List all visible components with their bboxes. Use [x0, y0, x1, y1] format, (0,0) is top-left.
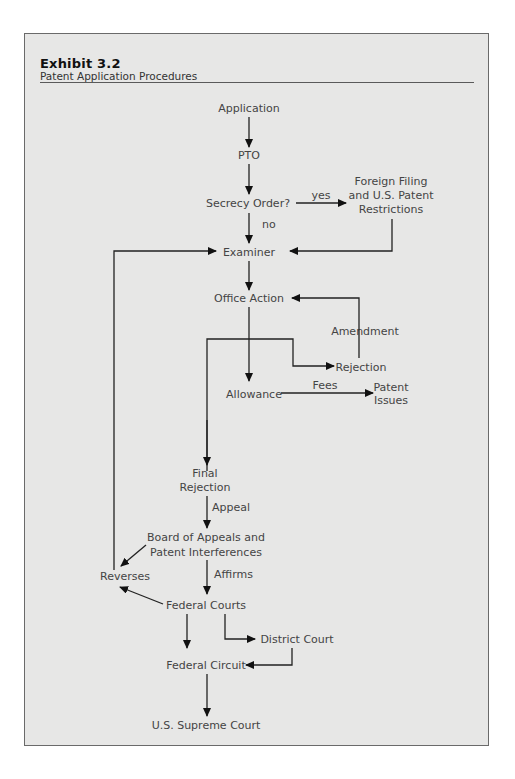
edge-label-fees: Fees — [313, 379, 338, 392]
edge-label-yes: yes — [311, 189, 330, 202]
node-reverses: Reverses — [100, 570, 150, 583]
arrow-federal-courts-to-reverses — [120, 587, 163, 604]
flowchart: Application PTO Secrecy Order? Foreign F… — [0, 0, 515, 779]
node-final-rejection-line2: Rejection — [180, 481, 231, 494]
node-foreign-filing-line2: and U.S. Patent — [349, 189, 435, 202]
node-federal-courts: Federal Courts — [166, 599, 246, 612]
arrow-foreign-to-examiner — [290, 219, 392, 251]
edge-label-affirms: Affirms — [214, 568, 253, 581]
node-patent-issues-line1: Patent — [373, 381, 409, 394]
node-rejection: Rejection — [336, 361, 387, 374]
edge-label-amendment: Amendment — [331, 325, 399, 338]
node-supreme-court: U.S. Supreme Court — [152, 719, 261, 732]
node-office-action: Office Action — [214, 292, 284, 305]
arrow-district-to-circuit — [246, 648, 292, 665]
node-board-line2: Patent Interferences — [150, 546, 262, 559]
node-federal-circuit: Federal Circuit — [166, 659, 246, 672]
node-examiner: Examiner — [223, 246, 276, 259]
node-final-rejection-line1: Final — [192, 467, 217, 480]
node-board-line1: Board of Appeals and — [147, 531, 265, 544]
arrow-federal-courts-to-district — [225, 614, 255, 639]
node-application: Application — [218, 102, 279, 115]
edge-label-appeal: Appeal — [212, 501, 250, 514]
edge-label-no: no — [262, 218, 276, 231]
node-patent-issues-line2: Issues — [374, 394, 408, 407]
node-secrecy-order: Secrecy Order? — [206, 197, 290, 210]
node-allowance: Allowance — [226, 388, 282, 401]
arrow-board-to-reverses — [121, 545, 146, 566]
node-foreign-filing-line1: Foreign Filing — [355, 175, 428, 188]
node-foreign-filing-line3: Restrictions — [359, 203, 424, 216]
node-district-court: District Court — [260, 633, 334, 646]
node-pto: PTO — [238, 149, 260, 162]
arrow-reverses-to-examiner — [114, 251, 216, 570]
arrow-to-rejection — [207, 339, 334, 471]
